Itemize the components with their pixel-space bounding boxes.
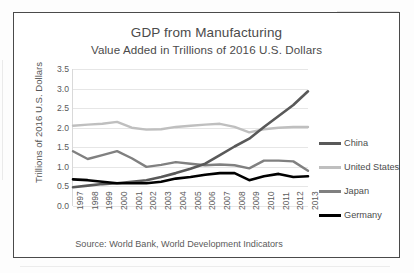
y-tick-label: 2.5 bbox=[57, 104, 69, 113]
chart-subtitle: Value Added in Trillions of 2016 U.S. Do… bbox=[14, 43, 399, 56]
y-axis-title: Trillions of 2016 U.S. Dollars bbox=[33, 53, 44, 193]
y-tick-label: 0.5 bbox=[57, 182, 69, 191]
figure-border: GDP from Manufacturing Value Added in Tr… bbox=[13, 12, 400, 258]
legend-swatch-icon bbox=[319, 214, 341, 217]
legend-item-china[interactable]: China bbox=[319, 135, 411, 151]
chart-figure: GDP from Manufacturing Value Added in Tr… bbox=[0, 0, 414, 273]
series-line-china bbox=[73, 91, 308, 187]
scan-artifact-bottom bbox=[20, 266, 390, 267]
legend-item-japan[interactable]: Japan bbox=[319, 183, 411, 199]
scan-artifact-left bbox=[2, 60, 3, 180]
legend-label: Germany bbox=[344, 210, 382, 220]
legend-swatch-icon bbox=[319, 166, 341, 169]
legend-swatch-icon bbox=[319, 190, 341, 193]
legend-label: Japan bbox=[344, 186, 369, 196]
y-tick-label: 3.0 bbox=[57, 84, 69, 93]
chart-legend: ChinaUnited StatesJapanGermany bbox=[319, 135, 411, 231]
series-line-united-states bbox=[73, 122, 308, 133]
legend-swatch-icon bbox=[319, 142, 341, 145]
y-tick-label: 3.5 bbox=[57, 65, 69, 74]
y-tick-label: 2.0 bbox=[57, 123, 69, 132]
plot-area: 0.00.51.01.52.02.53.03.5 199719981999200… bbox=[73, 69, 308, 206]
chart-title: GDP from Manufacturing bbox=[14, 25, 399, 40]
source-note: Source: World Bank, World Development In… bbox=[14, 239, 344, 249]
y-tick-label: 1.0 bbox=[57, 163, 69, 172]
y-tick-label: 0.0 bbox=[57, 202, 69, 211]
legend-item-united-states[interactable]: United States bbox=[319, 159, 411, 175]
series-lines bbox=[73, 69, 308, 206]
y-tick-label: 1.5 bbox=[57, 143, 69, 152]
series-line-germany bbox=[73, 173, 308, 183]
legend-item-germany[interactable]: Germany bbox=[319, 207, 411, 223]
legend-label: United States bbox=[344, 162, 399, 172]
legend-label: China bbox=[344, 138, 368, 148]
